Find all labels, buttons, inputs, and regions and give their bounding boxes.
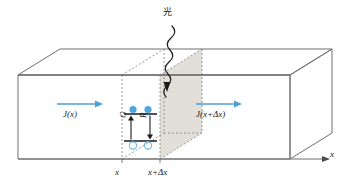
recombination-arrowhead-icon [147,135,153,140]
recombination-label: R [139,113,148,119]
generation-label: G [119,112,128,119]
generation-arrowhead-icon [128,116,134,121]
hole-open-circle-icon [129,142,136,149]
semiconductor-continuity-figure: 光 J(x) J(x+Δx) G R x x+Δx x [0,0,350,189]
slab-front-face [18,75,290,159]
x-axis-arrowhead-icon [322,156,330,162]
x-axis-label: x [330,150,334,159]
slab-right-face [290,49,332,159]
light-label: 光 [163,8,172,17]
hole-open-circle-icon [144,142,151,149]
current-out-label: J(x+Δx) [196,110,225,119]
current-out-arrowhead-icon [234,101,242,108]
electron-filled-circle-icon [129,106,136,113]
current-in-label: J(x) [63,110,77,119]
slice-edge-x-diagonal-top [122,49,164,75]
tick-label-x-plus-dx: x+Δx [148,168,167,177]
figure-canvas [0,0,350,189]
slice-edge-x-diagonal-bottom [122,133,164,159]
tick-label-x: x [115,168,119,177]
current-in-arrowhead-icon [95,101,103,108]
